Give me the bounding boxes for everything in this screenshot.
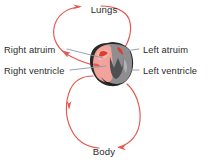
systemic-loop: [66, 76, 140, 150]
circulation-diagram: Lungs Body Right atruim Right ventricle …: [0, 0, 209, 163]
systemic-out-path: [119, 84, 140, 147]
label-left-atrium: Left atruim: [143, 45, 188, 55]
node-label-body: Body: [93, 146, 115, 157]
label-right-ventricle: Right ventricle: [4, 66, 64, 76]
arrow-down-left-pulmonary-icon: [62, 51, 71, 58]
arrow-up-left-systemic-icon: [67, 101, 72, 111]
label-left-ventricle: Left ventricle: [143, 66, 197, 76]
arrow-into-lungs-icon: [73, 4, 82, 9]
label-right-atrium: Right atruim: [4, 45, 55, 55]
heart-illustration: [90, 42, 133, 86]
node-label-lungs: Lungs: [91, 4, 118, 15]
systemic-in-path: [66, 76, 99, 148]
diagram-canvas: Lungs Body Right atruim Right ventricle …: [0, 0, 209, 163]
